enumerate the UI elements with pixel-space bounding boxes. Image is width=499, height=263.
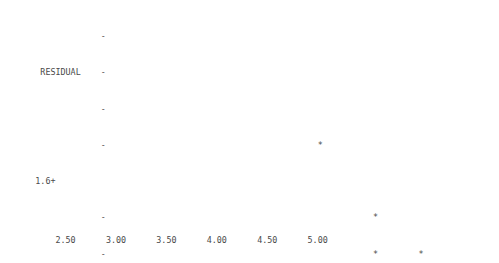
plot-character-grid: - RESIDUAL - - - * 1.6+ - (0, 6, 499, 263)
plot-row: - (0, 30, 499, 42)
residual-plot-figure: RESIDUAL YHAT - RESIDUAL - - - * 1.6+ (0, 0, 499, 263)
plot-row: 1.6+ (0, 175, 499, 187)
plot-row: - * * (0, 248, 499, 260)
y-axis-title: RESIDUAL (0, 0, 1, 1)
x-axis-title: YHAT (0, 0, 1, 1)
x-axis-tick-labels: 2.50 3.00 3.50 4.00 4.50 5.00 (0, 234, 499, 246)
plot-row: - (0, 103, 499, 115)
plot-row: RESIDUAL - (0, 66, 499, 78)
plot-row: - * (0, 211, 499, 223)
plot-row: - * (0, 139, 499, 151)
